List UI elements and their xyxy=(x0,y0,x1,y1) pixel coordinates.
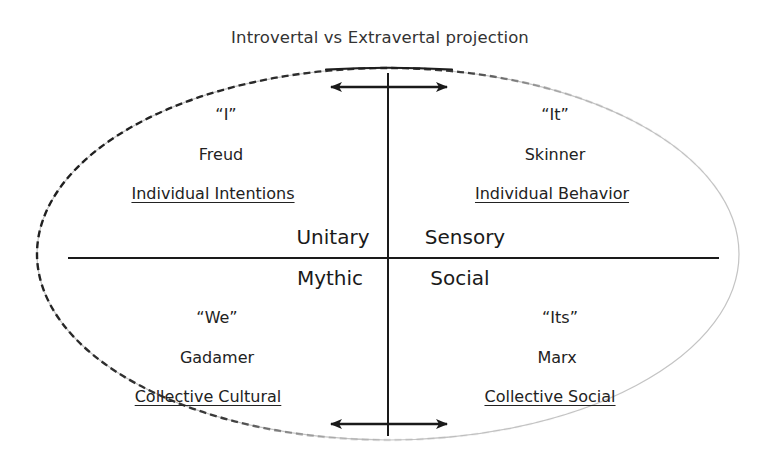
quadrant-bottom-left-label: Collective Cultural xyxy=(135,389,282,405)
center-label-top-right: Sensory xyxy=(425,227,505,247)
quadrant-diagram: Introvertal vs Extravertal projection “I… xyxy=(0,0,758,461)
quadrant-bottom-left-pronoun: “We” xyxy=(196,310,237,326)
quadrant-top-left-label: Individual Intentions xyxy=(131,186,294,202)
quadrant-top-right-label: Individual Behavior xyxy=(475,186,629,202)
diagram-title: Introvertal vs Extravertal projection xyxy=(231,30,529,47)
ellipse-top-solid-edge xyxy=(326,68,452,70)
diagram-shapes xyxy=(0,0,758,461)
quadrant-bottom-right-label: Collective Social xyxy=(484,389,615,405)
quadrant-top-left-pronoun: “I” xyxy=(215,107,236,123)
quadrant-bottom-left-thinker: Gadamer xyxy=(180,350,254,366)
quadrant-bottom-right-pronoun: “Its” xyxy=(542,310,578,326)
quadrant-bottom-right-thinker: Marx xyxy=(537,350,576,366)
quadrant-top-right-pronoun: “It” xyxy=(541,107,569,123)
quadrant-top-left-thinker: Freud xyxy=(199,147,243,163)
center-label-top-left: Unitary xyxy=(296,227,369,247)
quadrant-top-right-thinker: Skinner xyxy=(525,147,586,163)
center-label-bottom-left: Mythic xyxy=(297,268,363,288)
center-label-bottom-right: Social xyxy=(430,268,489,288)
